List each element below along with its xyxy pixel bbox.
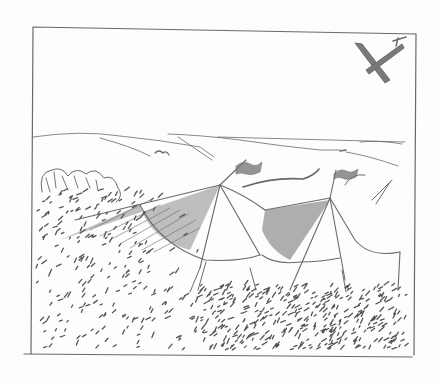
grass-field (36, 187, 408, 350)
tent-right (250, 169, 400, 292)
sketch-canvas (0, 0, 442, 382)
tent-left (60, 160, 265, 292)
sketch-illustration (0, 0, 442, 382)
airplane-icon (355, 37, 406, 83)
hills (33, 133, 405, 166)
